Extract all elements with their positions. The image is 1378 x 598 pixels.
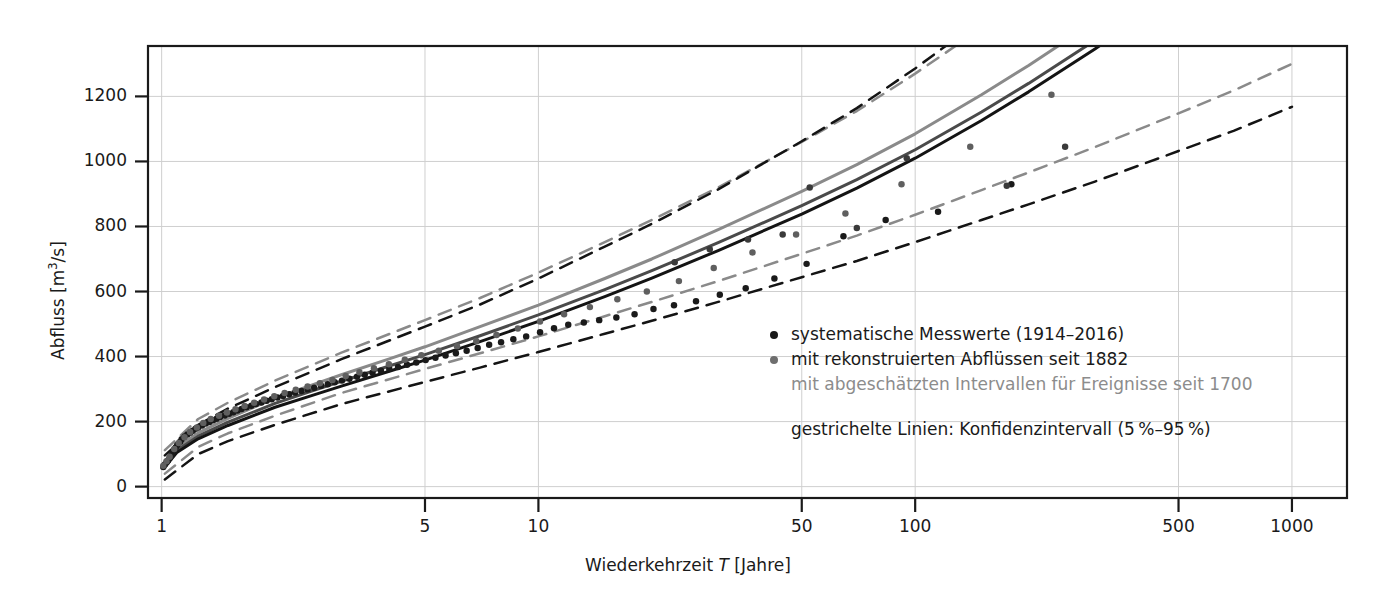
plot-canvas	[0, 0, 1378, 598]
y-axis-tick-label: 400	[47, 346, 127, 366]
data-point	[311, 385, 317, 391]
data-point	[463, 347, 469, 353]
data-point	[515, 325, 521, 331]
x-axis-title-suffix: [Jahre]	[729, 555, 791, 575]
data-point	[807, 184, 813, 190]
data-point	[561, 311, 567, 317]
x-axis-title: Wiederkehrzeit T [Jahre]	[585, 555, 791, 575]
data-point	[261, 396, 267, 402]
data-point	[453, 350, 459, 356]
data-point	[175, 440, 181, 446]
data-point	[371, 365, 377, 371]
data-point	[745, 236, 751, 242]
data-point	[523, 333, 529, 339]
data-point	[486, 342, 492, 348]
data-point	[187, 429, 193, 435]
data-point	[935, 209, 941, 215]
data-point	[454, 343, 460, 349]
data-point	[418, 352, 424, 358]
data-point	[474, 345, 480, 351]
data-point	[251, 399, 257, 405]
data-point	[613, 314, 619, 320]
chart-legend: systematische Messwerte (1914–2016) mit …	[770, 322, 1310, 439]
y-axis-tick-label: 200	[47, 411, 127, 431]
y-axis-tick-label: 1200	[47, 85, 127, 105]
data-point	[793, 231, 799, 237]
data-point	[967, 144, 973, 150]
legend-marker-empty-icon	[770, 381, 778, 389]
data-point	[298, 388, 304, 394]
y-axis-title-suffix: /s]	[48, 241, 68, 262]
data-point	[537, 329, 543, 335]
data-point	[742, 285, 748, 291]
data-point	[224, 409, 230, 415]
data-point	[413, 359, 419, 365]
legend-item-systematic: systematische Messwerte (1914–2016)	[770, 322, 1310, 347]
data-point	[473, 338, 479, 344]
legend-marker-black-dot-icon	[770, 331, 778, 339]
data-point	[356, 369, 362, 375]
data-point	[644, 288, 650, 294]
data-point	[402, 357, 408, 363]
x-axis-tick-label: 5	[385, 516, 465, 536]
data-point	[551, 325, 557, 331]
legend-marker-gray-dot-icon	[770, 356, 778, 364]
data-point	[882, 217, 888, 223]
legend-note-confidence-interval: gestrichelte Linien: Konfidenzintervall …	[770, 419, 1310, 439]
data-point	[498, 339, 504, 345]
data-point	[749, 249, 755, 255]
data-point	[596, 317, 602, 323]
y-axis-tick-label: 800	[47, 215, 127, 235]
data-point	[293, 386, 299, 392]
data-point	[779, 231, 785, 237]
data-point	[587, 304, 593, 310]
data-point	[436, 347, 442, 353]
data-point	[711, 265, 717, 271]
x-axis-tick-label: 1	[122, 516, 202, 536]
data-point	[422, 357, 428, 363]
data-point	[442, 352, 448, 358]
data-point	[537, 318, 543, 324]
data-point	[181, 434, 187, 440]
y-axis-tick-label: 0	[47, 476, 127, 496]
data-point	[166, 453, 172, 459]
data-point	[281, 390, 287, 396]
data-point	[432, 355, 438, 361]
data-point	[232, 406, 238, 412]
data-point	[317, 380, 323, 386]
data-point	[565, 321, 571, 327]
data-point	[329, 377, 335, 383]
legend-item-estimated: mit abgeschätzten Intervallen für Ereign…	[770, 372, 1310, 397]
legend-label-estimated: mit abgeschätzten Intervallen für Ereign…	[791, 372, 1253, 397]
data-point	[581, 319, 587, 325]
data-point	[717, 292, 723, 298]
data-point	[194, 424, 200, 430]
data-point	[386, 361, 392, 367]
data-point	[493, 332, 499, 338]
data-point	[676, 278, 682, 284]
data-point	[200, 420, 206, 426]
data-point	[671, 302, 677, 308]
data-point	[671, 259, 677, 265]
y-axis-title: Abfluss [m3/s]	[46, 241, 68, 360]
data-point	[304, 383, 310, 389]
legend-label-systematic: systematische Messwerte (1914–2016)	[791, 322, 1124, 347]
x-axis-tick-label: 100	[875, 516, 955, 536]
data-point	[614, 296, 620, 302]
data-point	[271, 393, 277, 399]
x-axis-tick-label: 50	[762, 516, 842, 536]
data-point	[771, 275, 777, 281]
data-point	[842, 210, 848, 216]
data-point	[510, 336, 516, 342]
flood-frequency-chart: Abfluss [m3/s] Wiederkehrzeit T [Jahre] …	[0, 0, 1378, 598]
y-axis-title-exponent: 3	[46, 262, 60, 269]
x-axis-tick-label: 1000	[1252, 516, 1332, 536]
data-point	[241, 403, 247, 409]
data-point	[342, 373, 348, 379]
data-point	[1048, 92, 1054, 98]
data-point	[904, 155, 910, 161]
data-point	[803, 261, 809, 267]
data-point	[378, 368, 384, 374]
data-point	[693, 298, 699, 304]
data-point	[707, 246, 713, 252]
